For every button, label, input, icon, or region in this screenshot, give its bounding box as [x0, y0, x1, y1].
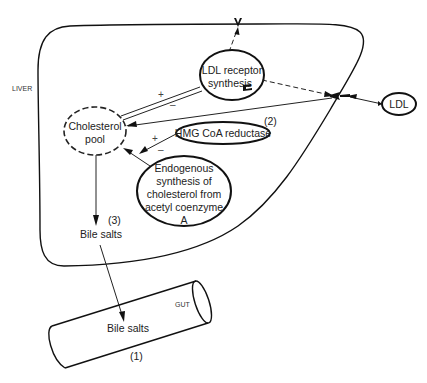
arrow-receptor-to-right-membrane: [262, 80, 330, 95]
minus-hmg: –: [158, 144, 164, 155]
step3-label: (3): [108, 214, 121, 226]
node-ldl: LDL: [382, 93, 416, 115]
svg-text:HMG CoA reductase: HMG CoA reductase: [175, 127, 271, 139]
svg-text:A: A: [180, 214, 187, 226]
receptor-top-icon: [234, 18, 242, 27]
node-ldl-receptor-synthesis: LDL receptor synthesis: [200, 50, 264, 100]
svg-text:Cholesterol: Cholesterol: [68, 120, 121, 132]
node-cholesterol-pool: Cholesterol pool: [64, 107, 126, 155]
svg-text:Endogenous: Endogenous: [155, 162, 214, 174]
cholesterol-metabolism-diagram: LIVER LDL receptor synthesis + – LDL Cho…: [0, 0, 427, 383]
minus-receptor: –: [170, 99, 176, 110]
liver-label: LIVER: [12, 85, 32, 92]
node-endogenous-synthesis: Endogenous synthesis of cholesterol from…: [137, 156, 231, 226]
plus-hmg: +: [152, 133, 158, 144]
svg-text:synthesis of: synthesis of: [156, 175, 212, 187]
node-hmg-coa-reductase: HMG CoA reductase: [175, 122, 271, 144]
bile-salts-liver: Bile salts: [80, 228, 122, 240]
gut-label: GUT: [175, 301, 191, 308]
step2-label: (2): [264, 115, 277, 127]
svg-text:acetyl coenzyme: acetyl coenzyme: [145, 201, 223, 213]
svg-text:LDL receptor: LDL receptor: [202, 64, 263, 76]
svg-text:pool: pool: [85, 133, 105, 145]
svg-text:cholesterol from: cholesterol from: [147, 188, 222, 200]
bile-salts-gut: Bile salts: [107, 322, 149, 334]
svg-text:LDL: LDL: [389, 98, 408, 110]
plus-receptor: +: [158, 89, 164, 100]
step1-label: (1): [130, 350, 143, 362]
